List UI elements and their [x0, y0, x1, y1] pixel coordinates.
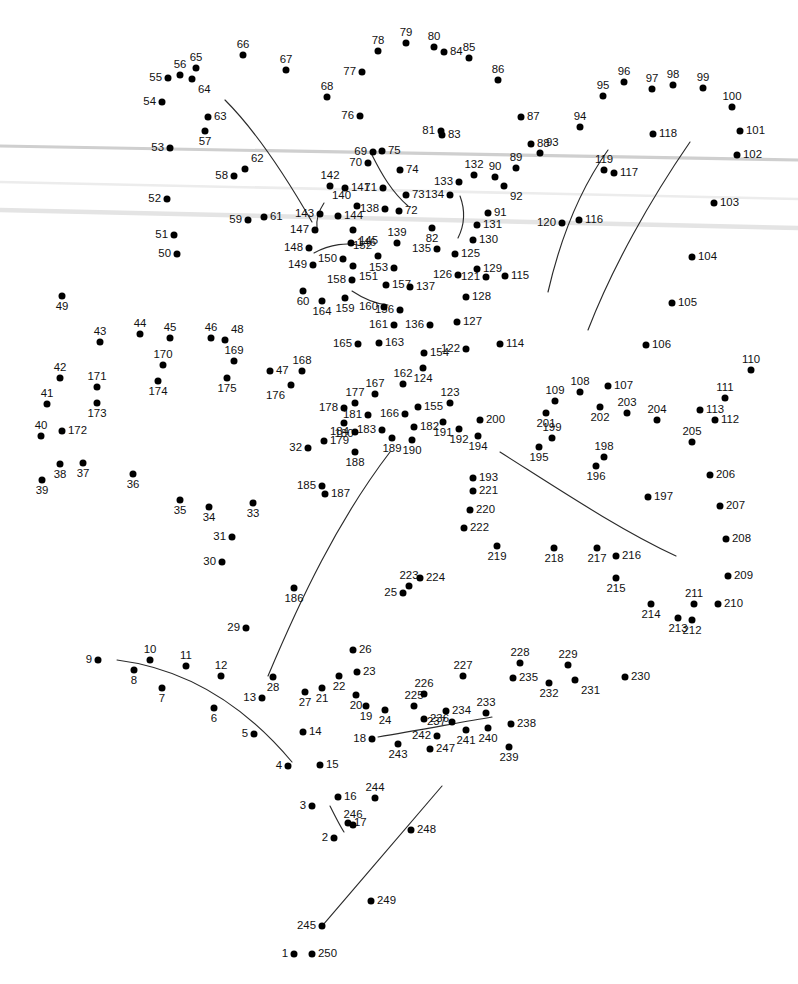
dot-marker-31[interactable] — [229, 534, 236, 541]
dot-marker-148[interactable] — [306, 245, 313, 252]
dot-marker-232[interactable] — [546, 680, 553, 687]
dot-marker-157[interactable] — [383, 282, 390, 289]
dot-marker-183[interactable] — [379, 427, 386, 434]
dot-marker-74[interactable] — [397, 167, 404, 174]
dot-marker-206[interactable] — [707, 472, 714, 479]
dot-marker-244[interactable] — [372, 795, 379, 802]
dot-marker-25[interactable] — [400, 590, 407, 597]
dot-marker-184[interactable] — [352, 429, 359, 436]
dot-marker-126[interactable] — [455, 272, 462, 279]
dot-marker-156[interactable] — [397, 307, 404, 314]
dot-marker-34[interactable] — [206, 504, 213, 511]
dot-marker-122[interactable] — [463, 346, 470, 353]
dot-marker-103[interactable] — [711, 200, 718, 207]
dot-marker-96[interactable] — [621, 79, 628, 86]
puzzle-dot-8[interactable]: 8 — [131, 667, 138, 687]
dot-marker-200[interactable] — [477, 417, 484, 424]
dot-marker-82[interactable] — [429, 225, 436, 232]
dot-marker-93[interactable] — [537, 150, 544, 157]
dot-marker-104[interactable] — [689, 254, 696, 261]
dot-marker-192[interactable] — [456, 426, 463, 433]
dot-marker-6[interactable] — [211, 705, 218, 712]
puzzle-dot-6[interactable]: 6 — [211, 705, 218, 725]
dot-marker-165[interactable] — [355, 341, 362, 348]
dot-marker-209[interactable] — [725, 573, 732, 580]
dot-marker-99[interactable] — [700, 85, 707, 92]
dot-marker-185[interactable] — [319, 483, 326, 490]
dot-marker-136[interactable] — [427, 322, 434, 329]
dot-marker-56[interactable] — [177, 72, 184, 79]
dot-marker-132[interactable] — [471, 172, 478, 179]
dot-marker-121[interactable] — [483, 274, 490, 281]
dot-marker-235[interactable] — [510, 675, 517, 682]
dot-marker-164[interactable] — [319, 298, 326, 305]
dot-marker-41[interactable] — [44, 401, 51, 408]
dot-marker-131[interactable] — [474, 222, 481, 229]
dot-marker-222[interactable] — [461, 525, 468, 532]
dot-marker-49[interactable] — [59, 293, 66, 300]
dot-marker-68[interactable] — [324, 94, 331, 101]
dot-marker-75[interactable] — [379, 148, 386, 155]
dot-marker-108[interactable] — [577, 389, 584, 396]
dot-marker-249[interactable] — [368, 898, 375, 905]
dot-marker-94[interactable] — [577, 124, 584, 131]
dot-marker-67[interactable] — [283, 67, 290, 74]
dot-marker-198[interactable] — [601, 454, 608, 461]
dot-marker-171[interactable] — [94, 384, 101, 391]
dot-marker-176[interactable] — [288, 382, 295, 389]
dot-marker-194[interactable] — [475, 433, 482, 440]
dot-marker-142[interactable] — [327, 183, 334, 190]
dot-marker-182[interactable] — [411, 424, 418, 431]
dot-marker-60[interactable] — [300, 288, 307, 295]
dot-marker-211[interactable] — [691, 601, 698, 608]
dot-marker-9[interactable] — [95, 657, 102, 664]
dot-marker-247[interactable] — [427, 746, 434, 753]
dot-marker-229[interactable] — [565, 662, 572, 669]
dot-marker-163[interactable] — [376, 340, 383, 347]
dot-marker-35[interactable] — [177, 497, 184, 504]
dot-marker-237[interactable] — [449, 719, 456, 726]
dot-marker-44[interactable] — [137, 331, 144, 338]
dot-marker-58[interactable] — [231, 173, 238, 180]
dot-marker-48[interactable] — [222, 337, 229, 344]
dot-marker-160[interactable] — [381, 304, 388, 311]
dot-marker-128[interactable] — [463, 294, 470, 301]
dot-marker-73[interactable] — [403, 192, 410, 199]
dot-marker-92[interactable] — [501, 183, 508, 190]
dot-marker-76[interactable] — [357, 113, 364, 120]
dot-marker-212[interactable] — [689, 617, 696, 624]
dot-marker-223[interactable] — [406, 583, 413, 590]
dot-marker-174[interactable] — [155, 378, 162, 385]
dot-marker-15[interactable] — [317, 762, 324, 769]
dot-marker-238[interactable] — [508, 721, 515, 728]
dot-marker-11[interactable] — [183, 663, 190, 670]
dot-marker-242[interactable] — [434, 733, 441, 740]
dot-marker-155[interactable] — [415, 404, 422, 411]
dot-marker-138[interactable] — [382, 206, 389, 213]
dot-marker-23[interactable] — [354, 669, 361, 676]
dot-marker-120[interactable] — [559, 220, 566, 227]
dot-marker-26[interactable] — [350, 647, 357, 654]
dot-marker-102[interactable] — [734, 152, 741, 159]
dot-marker-161[interactable] — [391, 322, 398, 329]
dot-marker-38[interactable] — [57, 461, 64, 468]
dot-marker-66[interactable] — [240, 52, 247, 59]
dot-marker-248[interactable] — [408, 827, 415, 834]
dot-marker-150[interactable] — [340, 256, 347, 263]
dot-marker-227[interactable] — [460, 673, 467, 680]
dot-marker-106[interactable] — [643, 342, 650, 349]
dot-marker-158[interactable] — [349, 277, 356, 284]
dot-marker-28[interactable] — [270, 674, 277, 681]
dot-marker-18[interactable] — [369, 736, 376, 743]
dot-marker-221[interactable] — [470, 488, 477, 495]
dot-marker-172[interactable] — [59, 428, 66, 435]
dot-marker-177[interactable] — [352, 400, 359, 407]
dot-marker-153[interactable] — [391, 265, 398, 272]
dot-marker-78[interactable] — [375, 48, 382, 55]
dot-marker-27[interactable] — [302, 689, 309, 696]
dot-marker-12[interactable] — [218, 673, 225, 680]
dot-marker-190[interactable] — [409, 437, 416, 444]
dot-marker-168[interactable] — [299, 368, 306, 375]
dot-marker-213[interactable] — [675, 615, 682, 622]
dot-marker-59[interactable] — [245, 217, 252, 224]
